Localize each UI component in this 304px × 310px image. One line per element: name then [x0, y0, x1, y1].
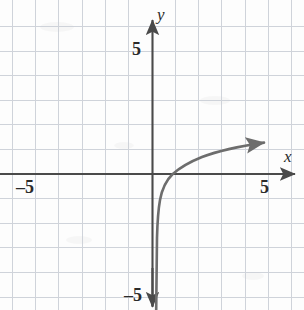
x-axis-label: x: [284, 148, 292, 165]
plot-svg: [0, 0, 304, 310]
log-curve: [156, 143, 264, 310]
axes: [0, 20, 295, 307]
y-tick-label-minus-5: –5: [124, 286, 142, 304]
x-tick-label-5: 5: [260, 178, 269, 196]
x-tick-label-minus-5: –5: [16, 178, 34, 196]
graph-figure: y x 5 –5 5 –5: [0, 0, 304, 310]
y-tick-label-5: 5: [132, 40, 141, 58]
y-axis-label: y: [157, 6, 165, 23]
